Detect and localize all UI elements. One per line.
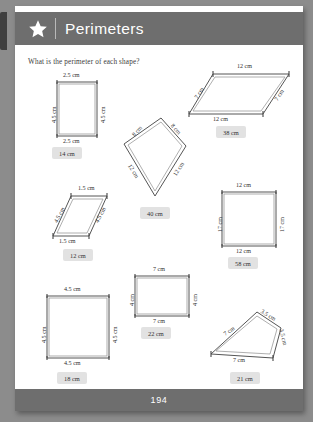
label-rect1-bottom: 2.5 cm	[63, 138, 80, 144]
label-square1-left: 4.5 cm	[41, 326, 47, 343]
label-par2-top: 1.5 cm	[78, 185, 95, 191]
label-rect1-right: 4.5 cm	[100, 106, 106, 123]
answer-kite-1[interactable]: 40 cm	[140, 207, 170, 219]
label-rect3-top: 7 cm	[153, 266, 165, 272]
label-square1-bottom: 4.5 cm	[64, 360, 81, 366]
answer-parallelogram-1[interactable]: 38 cm	[216, 126, 246, 138]
answer-rectangle-3[interactable]: 22 cm	[141, 327, 171, 339]
star-icon	[27, 18, 49, 40]
answer-square-1[interactable]: 18 cm	[57, 372, 87, 384]
page-edge-tab	[0, 12, 7, 50]
label-rect3-right: 4 cm	[192, 294, 198, 306]
label-par1-bottom: 12 cm	[213, 116, 228, 122]
label-rect1-left: 4.5 cm	[51, 106, 57, 123]
label-rect2-left: 17 cm	[217, 217, 223, 232]
header-divider	[55, 18, 56, 39]
label-rect2-top: 12 cm	[236, 182, 251, 188]
label-rect1-top: 2.5 cm	[63, 72, 80, 78]
answer-rectangle-1[interactable]: 14 cm	[52, 147, 82, 159]
page-footer: 194	[15, 389, 303, 411]
worksheet-header: Perimeters	[15, 12, 303, 45]
label-square1-right: 4.5 cm	[112, 326, 118, 343]
label-rect3-bottom: 7 cm	[153, 318, 165, 324]
label-square1-top: 4.5 cm	[64, 286, 81, 292]
worksheet-page: Perimeters What is the perimeter of each…	[15, 6, 303, 411]
answer-quadrilateral-1[interactable]: 21 cm	[230, 372, 260, 384]
page-number: 194	[151, 395, 168, 405]
page-title: Perimeters	[65, 20, 144, 38]
instruction-text: What is the perimeter of each shape?	[28, 58, 140, 66]
answer-parallelogram-2[interactable]: 12 cm	[63, 249, 93, 261]
answer-rectangle-2[interactable]: 58 cm	[228, 257, 258, 269]
label-par2-bottom: 1.5 cm	[59, 238, 76, 244]
label-rect2-right: 17 cm	[279, 217, 285, 232]
label-rect2-bottom: 12 cm	[236, 248, 251, 254]
label-rect3-left: 4 cm	[129, 294, 135, 306]
label-par1-top: 12 cm	[237, 63, 252, 69]
label-quad1-bottom: 7 cm	[233, 357, 245, 363]
